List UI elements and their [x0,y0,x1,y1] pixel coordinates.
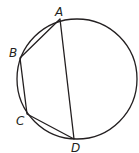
circle [17,19,137,139]
inscribed-quadrilateral-diagram: A B C D [0,0,139,153]
quadrilateral-abcd [20,19,74,139]
label-d: D [71,141,80,153]
label-c: C [16,114,25,128]
label-b: B [9,46,17,60]
label-a: A [54,5,63,19]
